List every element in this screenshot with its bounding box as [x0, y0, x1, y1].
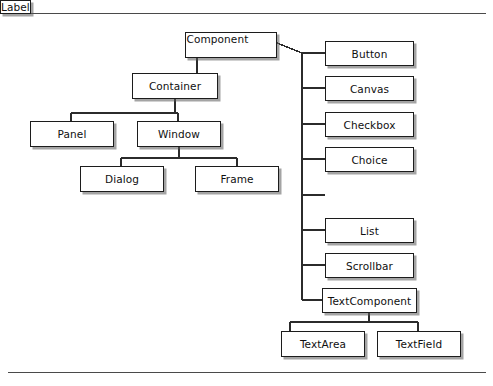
node-choice[interactable]: Choice [325, 147, 414, 172]
node-scrollbar[interactable]: Scrollbar [325, 253, 414, 278]
node-checkbox[interactable]: Checkbox [325, 112, 414, 137]
node-label: Button [352, 48, 388, 60]
node-label: Canvas [350, 83, 389, 95]
node-textarea[interactable]: TextArea [281, 331, 365, 357]
node-textfield[interactable]: TextField [377, 331, 461, 357]
edge-textcomponent-children [290, 313, 418, 331]
node-label: Label [1, 1, 30, 13]
node-label: Frame [220, 173, 253, 185]
node-label: Choice [351, 154, 387, 166]
node-frame[interactable]: Frame [195, 166, 279, 192]
node-label[interactable]: Label [0, 0, 31, 14]
node-textcomponent[interactable]: TextComponent [322, 288, 417, 313]
edge-component-trunk [277, 43, 302, 53]
node-label: Dialog [105, 173, 139, 185]
node-label: Container [149, 80, 201, 92]
node-label: TextComponent [328, 295, 412, 307]
node-label: TextArea [300, 338, 346, 350]
node-window[interactable]: Window [137, 121, 221, 147]
node-component[interactable]: Component [185, 32, 277, 58]
node-dialog[interactable]: Dialog [80, 166, 164, 192]
class-hierarchy-diagram: Component Container Panel Window Dialog … [0, 0, 493, 386]
node-label: Scrollbar [346, 260, 393, 272]
node-label: TextField [396, 338, 442, 350]
node-label: Window [158, 128, 200, 140]
node-label: List [360, 225, 379, 237]
node-container[interactable]: Container [132, 73, 218, 99]
node-button[interactable]: Button [325, 41, 414, 66]
edge-window-children [121, 147, 237, 166]
node-canvas[interactable]: Canvas [325, 76, 414, 101]
node-label: Checkbox [343, 119, 395, 131]
edge-container-children [71, 99, 178, 121]
node-label: Panel [58, 128, 87, 140]
node-list[interactable]: List [325, 218, 414, 243]
node-panel[interactable]: Panel [30, 121, 114, 147]
node-label: Component [187, 33, 276, 58]
